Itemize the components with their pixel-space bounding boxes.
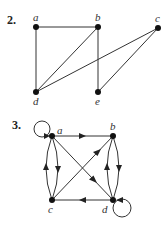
arrowhead-icon bbox=[116, 197, 123, 203]
label-c: c bbox=[155, 12, 160, 24]
vertex-a bbox=[33, 24, 39, 30]
label-b: b bbox=[110, 120, 116, 132]
arrowhead-icon bbox=[79, 197, 86, 203]
arrowhead-icon bbox=[116, 165, 122, 172]
edge-b-d bbox=[36, 27, 98, 92]
label-e: e bbox=[95, 95, 100, 107]
figure-2: 2. a b c d e bbox=[7, 11, 161, 107]
graph-figures: 2. a b c d e 3. bbox=[0, 0, 163, 232]
label-a: a bbox=[57, 124, 63, 136]
label-b: b bbox=[95, 11, 101, 23]
arrowhead-icon bbox=[93, 149, 101, 156]
label-d: d bbox=[102, 203, 108, 215]
vertex-a bbox=[49, 133, 55, 139]
edge-loop-a bbox=[34, 121, 50, 137]
edge-c-e bbox=[98, 28, 158, 92]
vertex-d bbox=[110, 197, 116, 203]
figure-3-number: 3. bbox=[12, 118, 21, 132]
arrowhead-icon bbox=[43, 163, 49, 170]
label-c: c bbox=[48, 203, 53, 215]
figure-3: 3. a b c d bbox=[12, 118, 131, 217]
edge-c-d bbox=[36, 28, 158, 92]
label-d: d bbox=[33, 95, 39, 107]
arrowhead-icon bbox=[55, 166, 61, 173]
figure-2-number: 2. bbox=[7, 13, 16, 27]
label-a: a bbox=[33, 11, 39, 23]
vertex-b bbox=[110, 133, 116, 139]
vertex-b bbox=[95, 24, 101, 30]
vertex-c bbox=[155, 25, 161, 31]
arrowhead-icon bbox=[104, 163, 110, 170]
arrowhead-icon bbox=[79, 133, 86, 139]
